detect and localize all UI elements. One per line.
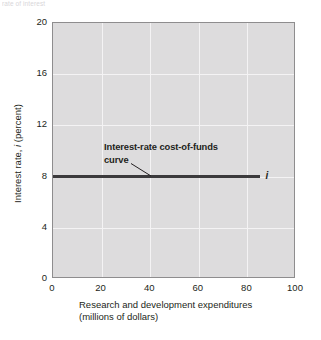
x-axis-title-line2: (millions of dollars) <box>79 311 158 322</box>
gridline-horizontal <box>53 74 294 75</box>
gridline-horizontal <box>53 125 294 126</box>
curve-annotation-line1: Interest-rate cost-of-funds <box>104 141 218 152</box>
curve-endpoint-symbol: i <box>265 171 268 181</box>
y-axis-title-symbol: i <box>12 145 23 147</box>
x-tick-label: 40 <box>129 282 169 293</box>
x-axis-title: Research and development expenditures (m… <box>79 299 309 323</box>
x-tick-label: 100 <box>275 282 315 293</box>
y-tick-label: 4 <box>3 222 47 232</box>
y-tick-label: 12 <box>3 119 47 129</box>
figure-container: rate of interest i Interest-rate cost-of… <box>0 0 321 340</box>
y-axis-title: Interest rate, i (percent) <box>12 74 23 234</box>
gridline-horizontal <box>53 228 294 229</box>
x-tick-label: 20 <box>81 282 121 293</box>
y-tick-label: 8 <box>3 171 47 181</box>
x-axis-title-line1: Research and development expenditures <box>79 299 252 310</box>
y-axis-title-suffix: (percent) <box>12 104 23 145</box>
gridline-vertical <box>102 23 103 277</box>
y-tick-label: 16 <box>3 68 47 78</box>
x-axis-ticks: 020406080100 <box>0 282 321 296</box>
curve-annotation-label: Interest-rate cost-of-funds curve <box>104 141 254 166</box>
y-axis-title-prefix: Interest rate, <box>12 147 23 203</box>
x-tick-label: 0 <box>32 282 72 293</box>
interest-rate-cost-of-funds-curve <box>53 175 260 178</box>
curve-annotation-line2: curve <box>104 154 129 165</box>
y-tick-label: 20 <box>3 17 47 27</box>
x-tick-label: 60 <box>178 282 218 293</box>
x-tick-label: 80 <box>226 282 266 293</box>
